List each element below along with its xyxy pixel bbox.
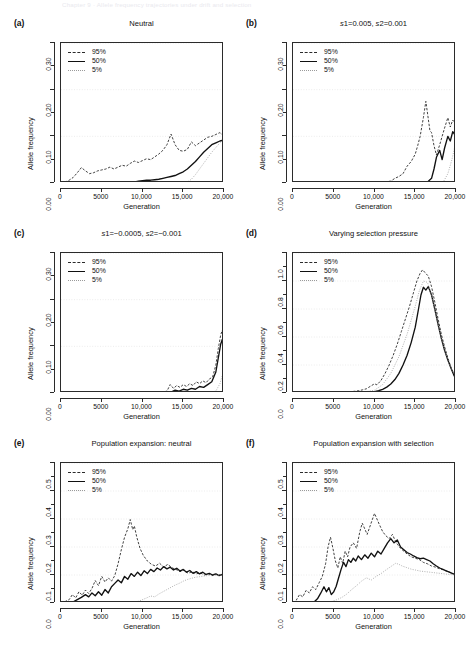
series-line-d-95pct — [293, 270, 455, 392]
y-axis-line-b — [286, 42, 287, 182]
x-tick-label-c-1: 5000 — [81, 403, 121, 410]
legend-label-95pct: 95% — [92, 258, 106, 265]
x-tick-a-0 — [60, 188, 61, 192]
x-tick-label-b-4: 20,000 — [435, 193, 469, 200]
panel-title-a: Neutral — [60, 19, 223, 28]
x-tick-label-f-1: 5000 — [313, 613, 353, 620]
y-axis-label-b: Allele frequency — [258, 117, 267, 170]
legend-key-dashed — [68, 472, 85, 474]
legend-key-dashed — [300, 52, 317, 54]
panel-label-c: (c) — [14, 228, 24, 238]
legend-key-solid — [300, 481, 317, 483]
x-tick-b-0 — [292, 188, 293, 192]
panel-label-a: (a) — [14, 18, 24, 28]
y-minor-tick-e-3 — [51, 504, 54, 505]
x-tick-c-4 — [223, 398, 224, 402]
legend-label-50pct: 50% — [324, 477, 338, 484]
legend-label-5pct: 5% — [92, 276, 102, 283]
legend-key-solid — [300, 61, 317, 63]
plot-canvas-b — [293, 43, 455, 182]
x-tick-f-0 — [292, 608, 293, 612]
x-tick-a-4 — [223, 188, 224, 192]
legend-key-solid — [300, 271, 317, 273]
series-line-b-50pct — [293, 132, 455, 182]
panel-label-d: (d) — [246, 228, 257, 238]
x-tick-label-e-2: 10,000 — [122, 613, 162, 620]
y-tick-d-5 — [282, 252, 286, 253]
panel-label-b: (b) — [246, 18, 257, 28]
y-axis-label-d: Allele frequency — [258, 327, 267, 380]
x-tick-d-4 — [455, 398, 456, 402]
plot-area-c — [60, 252, 223, 392]
plot-canvas-d — [293, 253, 455, 392]
y-tick-label-a-1: 0.10 — [45, 146, 52, 168]
x-tick-label-e-3: 15,000 — [162, 613, 202, 620]
legend-label-5pct: 5% — [324, 66, 334, 73]
legend-key-dotted — [68, 490, 85, 492]
x-tick-a-2 — [142, 188, 143, 192]
panel-title-c: s1=−0.0005, s2=−0.001 — [60, 229, 223, 238]
series-line-d-50pct — [293, 287, 455, 392]
y-tick-b-3 — [282, 42, 286, 43]
x-tick-b-4 — [455, 188, 456, 192]
y-axis-label-f: Allele frequency — [258, 537, 267, 590]
y-minor-tick-c-0 — [51, 369, 54, 370]
series-line-c-50pct — [61, 339, 223, 392]
y-tick-a-1 — [50, 135, 54, 136]
x-tick-e-1 — [101, 608, 102, 612]
y-tick-label-c-1: 0.10 — [45, 356, 52, 378]
y-axis-label-c: Allele frequency — [26, 327, 35, 380]
legend-key-dotted — [300, 490, 317, 492]
y-axis-label-a: Allele frequency — [26, 117, 35, 170]
x-tick-label-e-0: 0 — [40, 613, 80, 620]
x-tick-label-a-4: 20,000 — [203, 193, 243, 200]
x-tick-label-f-0: 0 — [272, 613, 312, 620]
y-minor-tick-e-1 — [51, 560, 54, 561]
x-tick-e-0 — [60, 608, 61, 612]
x-tick-e-3 — [182, 608, 183, 612]
x-tick-c-1 — [101, 398, 102, 402]
x-axis-label-b: Generation — [292, 202, 455, 211]
legend-key-dashed — [300, 472, 317, 474]
x-tick-label-b-2: 10,000 — [354, 193, 394, 200]
y-minor-tick-e-4 — [51, 476, 54, 477]
y-axis-line-d — [286, 252, 287, 392]
x-tick-label-d-3: 15,000 — [394, 403, 434, 410]
x-tick-label-c-2: 10,000 — [122, 403, 162, 410]
legend-label-95pct: 95% — [92, 468, 106, 475]
panel-label-e: (e) — [14, 438, 24, 448]
x-tick-b-1 — [333, 188, 334, 192]
y-tick-a-0 — [50, 182, 54, 183]
y-tick-c-1 — [50, 345, 54, 346]
panel-title-d: Varying selection pressure — [292, 229, 455, 238]
y-minor-tick-a-2 — [51, 65, 54, 66]
legend-label-95pct: 95% — [92, 48, 106, 55]
series-line-e-5pct — [61, 575, 223, 602]
y-minor-tick-a-1 — [51, 112, 54, 113]
y-tick-label-c-2: 0.20 — [45, 309, 52, 331]
series-line-f-5pct — [293, 563, 455, 602]
x-tick-label-b-1: 5000 — [313, 193, 353, 200]
y-minor-tick-d-1 — [283, 350, 286, 351]
legend-label-50pct: 50% — [92, 267, 106, 274]
y-tick-b-2 — [282, 89, 286, 90]
x-tick-e-4 — [223, 608, 224, 612]
legend-key-dotted — [300, 70, 317, 72]
y-minor-tick-f-0 — [283, 588, 286, 589]
x-tick-d-0 — [292, 398, 293, 402]
legend-label-50pct: 50% — [92, 477, 106, 484]
x-axis-label-e: Generation — [60, 622, 223, 631]
legend-key-dotted — [68, 70, 85, 72]
legend-key-dashed — [68, 52, 85, 54]
y-minor-tick-f-2 — [283, 532, 286, 533]
y-tick-b-0 — [282, 182, 286, 183]
y-axis-line-f — [286, 462, 287, 602]
plot-area-e — [60, 462, 223, 602]
legend-label-50pct: 50% — [324, 57, 338, 64]
plot-canvas-c — [61, 253, 223, 392]
legend-label-5pct: 5% — [92, 66, 102, 73]
x-tick-label-a-0: 0 — [40, 193, 80, 200]
panel-title-b: s1=0.005, s2=0.001 — [292, 19, 455, 28]
y-axis-label-e: Allele frequency — [26, 537, 35, 590]
y-minor-tick-f-1 — [283, 560, 286, 561]
